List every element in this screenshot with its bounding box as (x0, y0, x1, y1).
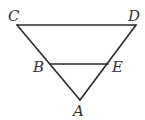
label-e: E (111, 58, 123, 76)
segment-da (80, 25, 136, 100)
label-c: C (8, 7, 20, 25)
segment-ca (17, 25, 80, 100)
label-b: B (32, 58, 44, 76)
label-d: D (127, 7, 140, 25)
label-a: A (71, 102, 84, 120)
triangle-diagram: C D B E A (0, 0, 145, 120)
